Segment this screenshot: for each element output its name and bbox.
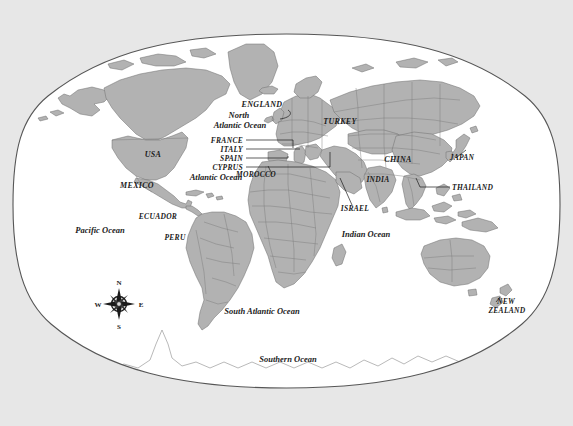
land-sri-lanka bbox=[382, 207, 388, 213]
compass-label-south: S bbox=[117, 323, 121, 331]
country-label-ecuador: ECUADOR bbox=[138, 212, 177, 221]
ocean-label-south-atlantic-ocean: South Atlantic Ocean bbox=[224, 306, 300, 316]
country-label-israel: ISRAEL bbox=[340, 204, 370, 213]
compass-label-north: N bbox=[116, 279, 121, 287]
country-label-morocco: MOROCCO bbox=[235, 170, 276, 179]
country-label-india: INDIA bbox=[365, 175, 389, 184]
world-map-figure: North Atlantic Ocean Atlantic Ocean Paci… bbox=[0, 0, 573, 426]
country-label-peru: PERU bbox=[164, 233, 185, 242]
compass-inner-hub bbox=[117, 302, 122, 307]
ocean-label-atlantic-ocean: Atlantic Ocean bbox=[189, 172, 243, 182]
ocean-label-southern-ocean: Southern Ocean bbox=[259, 354, 317, 364]
country-label-thailand: THAILAND bbox=[452, 183, 493, 192]
country-label-japan: JAPAN bbox=[449, 153, 475, 162]
compass-label-east: E bbox=[139, 301, 144, 309]
country-label-mexico: MEXICO bbox=[119, 181, 154, 190]
country-label-turkey: TURKEY bbox=[323, 117, 357, 126]
country-label-italy: ITALY bbox=[220, 145, 245, 154]
map-svg: North Atlantic Ocean Atlantic Ocean Paci… bbox=[0, 0, 573, 426]
country-label-china: CHINA bbox=[384, 155, 412, 164]
ocean-label-indian-ocean: Indian Ocean bbox=[341, 229, 391, 239]
ocean-label-pacific-ocean: Pacific Ocean bbox=[75, 225, 125, 235]
country-label-england: ENGLAND bbox=[241, 100, 283, 109]
country-label-france: FRANCE bbox=[211, 136, 243, 145]
country-label-usa: USA bbox=[145, 150, 162, 159]
compass-label-west: W bbox=[95, 301, 102, 309]
country-label-spain: SPAIN bbox=[220, 154, 243, 163]
land-tasmania bbox=[468, 289, 477, 296]
